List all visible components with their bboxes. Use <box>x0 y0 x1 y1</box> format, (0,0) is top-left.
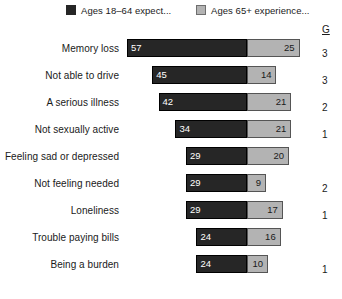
bar-segment-ages-65-plus[interactable]: 14 <box>247 66 276 84</box>
bar-value-label: 57 <box>131 43 142 53</box>
bar-value-label: 25 <box>284 43 295 53</box>
chart-row: Feeling sad or depressed2920 <box>0 146 342 166</box>
bar-group: 4514 <box>0 65 342 85</box>
bar-segment-ages-65-plus[interactable]: 21 <box>247 120 291 138</box>
chart-row: Being a burden2410 <box>0 254 342 274</box>
chart-row: Not able to drive4514 <box>0 65 342 85</box>
bar-value-label: 10 <box>252 259 263 269</box>
bar-value-label: 42 <box>163 97 174 107</box>
bar-value-label: 17 <box>267 205 278 215</box>
bar-value-label: 21 <box>276 97 287 107</box>
legend-entry-ages-18-64[interactable]: Ages 18–64 expect... <box>66 3 171 17</box>
bar-value-label: 14 <box>261 70 272 80</box>
chart-row: Not sexually active3421 <box>0 119 342 139</box>
bar-segment-ages-65-plus[interactable]: 9 <box>247 174 266 192</box>
bar-value-label: 21 <box>276 124 287 134</box>
bar-segment-ages-18-64[interactable]: 29 <box>186 201 247 219</box>
bar-value-label: 16 <box>265 232 276 242</box>
legend-entry-ages-65-plus[interactable]: Ages 65+ experience... <box>196 3 310 17</box>
filled-square-light-icon <box>196 5 206 15</box>
bar-value-label: 24 <box>200 259 211 269</box>
bar-segment-ages-65-plus[interactable]: 20 <box>247 147 289 165</box>
bar-segment-ages-18-64[interactable]: 42 <box>159 93 247 111</box>
bar-segment-ages-18-64[interactable]: 57 <box>127 39 247 57</box>
bar-value-label: 34 <box>179 124 190 134</box>
bar-group: 4221 <box>0 92 342 112</box>
chart-row: Trouble paying bills2416 <box>0 227 342 247</box>
bar-segment-ages-65-plus[interactable]: 10 <box>247 255 268 273</box>
legend-label-ages-65-plus: Ages 65+ experience... <box>211 5 310 16</box>
chart-row: A serious illness4221 <box>0 92 342 112</box>
filled-square-dark-icon <box>66 5 76 15</box>
chart-legend: Ages 18–64 expect... Ages 65+ experience… <box>0 2 342 20</box>
bar-group: 2410 <box>0 254 342 274</box>
bar-value-label: 29 <box>190 205 201 215</box>
chart-plot-area: Memory loss5725Not able to drive4514A se… <box>0 38 342 293</box>
bar-segment-ages-18-64[interactable]: 34 <box>175 120 247 138</box>
bar-value-label: 45 <box>156 70 167 80</box>
bar-segment-ages-18-64[interactable]: 29 <box>186 147 247 165</box>
bar-group: 299 <box>0 173 342 193</box>
bar-group: 2917 <box>0 200 342 220</box>
legend-label-ages-18-64: Ages 18–64 expect... <box>81 5 171 16</box>
bar-group: 5725 <box>0 38 342 58</box>
bar-segment-ages-18-64[interactable]: 24 <box>196 228 247 246</box>
bar-segment-ages-65-plus[interactable]: 21 <box>247 93 291 111</box>
bar-value-label: 9 <box>256 178 261 188</box>
chart-container: Ages 18–64 expect... Ages 65+ experience… <box>0 0 342 299</box>
bar-segment-ages-18-64[interactable]: 29 <box>186 174 247 192</box>
chart-row: Memory loss5725 <box>0 38 342 58</box>
bar-group: 2920 <box>0 146 342 166</box>
bar-group: 3421 <box>0 119 342 139</box>
bar-segment-ages-65-plus[interactable]: 25 <box>247 39 300 57</box>
bar-segment-ages-65-plus[interactable]: 17 <box>247 201 283 219</box>
bar-segment-ages-65-plus[interactable]: 16 <box>247 228 281 246</box>
bar-value-label: 20 <box>274 151 285 161</box>
side-column-header: G <box>322 24 330 35</box>
bar-value-label: 29 <box>190 151 201 161</box>
chart-row: Not feeling needed299 <box>0 173 342 193</box>
bar-value-label: 29 <box>190 178 201 188</box>
bar-group: 2416 <box>0 227 342 247</box>
bar-value-label: 24 <box>200 232 211 242</box>
bar-segment-ages-18-64[interactable]: 45 <box>152 66 247 84</box>
bar-segment-ages-18-64[interactable]: 24 <box>196 255 247 273</box>
chart-row: Loneliness2917 <box>0 200 342 220</box>
